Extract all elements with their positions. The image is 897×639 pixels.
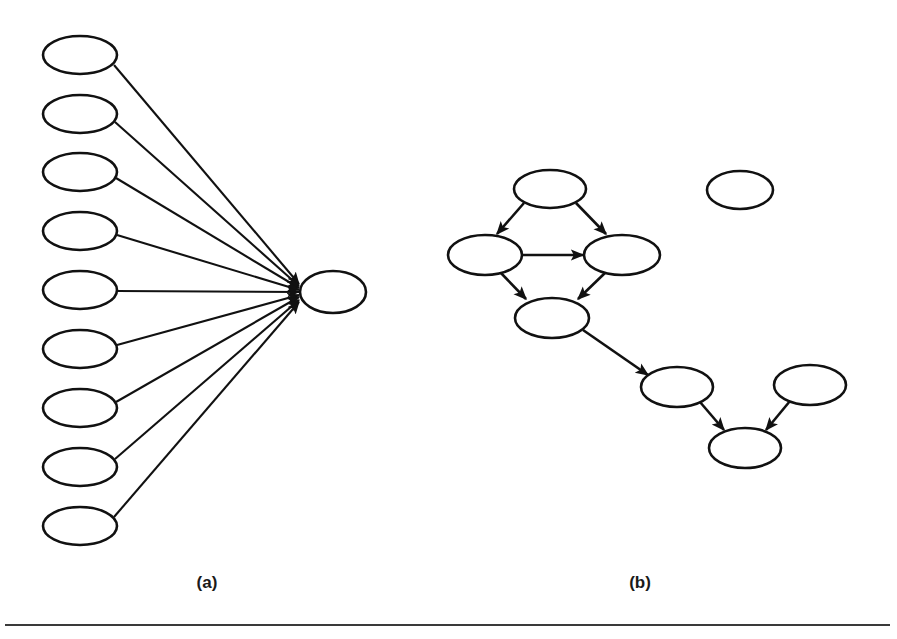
caption-panel-a: (a) (197, 573, 218, 592)
edge-a3-to-hub (116, 178, 299, 288)
edge-bleft-to-bmid (500, 272, 526, 299)
edge-a1-to-hub (114, 65, 299, 284)
edge-bright-to-bmid (578, 272, 606, 299)
panel-b-group: (b) (448, 170, 846, 592)
edge-a9-to-hub (114, 302, 299, 517)
edge-btop-to-bright (576, 203, 606, 234)
caption-panel-b: (b) (629, 573, 651, 592)
node-a2 (43, 95, 117, 133)
node-b-isolated (707, 171, 773, 209)
node-a9 (43, 507, 117, 545)
panel-a-edges (114, 65, 299, 517)
node-b-top (514, 170, 586, 208)
edge-a5-to-hub (117, 291, 299, 292)
node-a6 (43, 330, 117, 368)
figure-svg: (a) (0, 0, 897, 639)
node-a4 (43, 212, 117, 250)
node-a7 (43, 389, 117, 427)
edge-a7-to-hub (116, 297, 299, 402)
edge-bchain1-to-bchain2 (700, 402, 724, 430)
node-a5 (43, 271, 117, 309)
node-a-hub (300, 271, 366, 313)
node-a3 (43, 153, 117, 191)
panel-b-nodes (448, 170, 846, 468)
edge-a8-to-hub (115, 300, 299, 459)
node-b-left (448, 235, 522, 275)
node-b-chain1 (641, 367, 713, 407)
edge-btop-to-bleft (497, 203, 524, 234)
node-b-chain2 (709, 428, 781, 468)
node-b-right (584, 235, 660, 275)
figure-container: (a) (0, 0, 897, 639)
node-b-chain-right (774, 365, 846, 405)
node-a1 (43, 36, 117, 74)
panel-a-group: (a) (43, 36, 366, 592)
node-a8 (43, 448, 117, 486)
node-b-mid (515, 298, 589, 338)
edge-bchainR-to-bchain2 (766, 401, 790, 430)
edge-bmid-to-bchain1 (583, 330, 648, 375)
edge-a6-to-hub (117, 295, 299, 345)
